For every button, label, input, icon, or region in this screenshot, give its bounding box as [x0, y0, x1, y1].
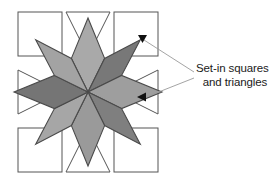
callout-label-line-1: Set-in squares — [196, 62, 274, 76]
star-group — [14, 18, 162, 166]
figure-root: Set-in squares and triangles — [0, 0, 275, 185]
callout-label-line-2: and triangles — [196, 76, 274, 90]
callout-label: Set-in squares and triangles — [196, 62, 274, 89]
quilt-block-diagram — [0, 0, 275, 185]
